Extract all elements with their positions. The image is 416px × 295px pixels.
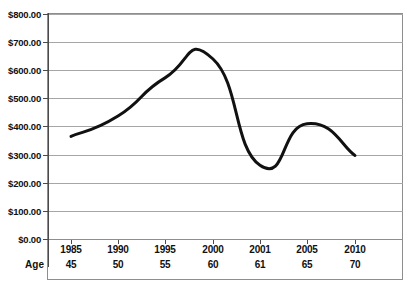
y-axis-tick-label: $100.00 (8, 206, 41, 217)
x-axis-age-label: 70 (335, 259, 375, 270)
x-axis-age-label: 50 (98, 259, 138, 270)
series-path (71, 49, 355, 169)
y-axis-tick-label: $300.00 (8, 150, 41, 161)
x-axis-age-label: 65 (287, 259, 327, 270)
x-axis-year-label: 1990 (98, 244, 138, 255)
y-tick-mark (43, 211, 48, 212)
y-tick-mark (43, 98, 48, 99)
y-tick-mark (43, 155, 48, 156)
y-axis-labels: $800.00 $700.00 $600.00 $500.00 $400.00 … (0, 0, 41, 295)
clipped-text-strip (150, 0, 416, 6)
x-axis-year-label: 1985 (51, 244, 91, 255)
y-tick-mark (43, 70, 48, 71)
y-axis-tick-label: $600.00 (8, 65, 41, 76)
x-axis-year-label: 1995 (145, 244, 185, 255)
x-axis-year-label: 2005 (287, 244, 327, 255)
x-axis-age-label: 60 (193, 259, 233, 270)
data-series-line (49, 14, 403, 239)
x-axis-year-label: 2000 (193, 244, 233, 255)
y-axis-tick-label: $0.00 (18, 234, 41, 245)
y-tick-mark (43, 14, 48, 15)
x-axis-age-label: 45 (51, 259, 91, 270)
x-axis-age-label: 55 (145, 259, 185, 270)
y-axis-tick-label: $200.00 (8, 178, 41, 189)
y-tick-mark (43, 42, 48, 43)
y-tick-mark (43, 183, 48, 184)
x-axis-age-label: 61 (240, 259, 280, 270)
age-row-label: Age (14, 259, 44, 270)
y-axis-tick-label: $800.00 (8, 9, 41, 20)
y-tick-mark (43, 126, 48, 127)
y-axis-tick-label: $500.00 (8, 93, 41, 104)
x-axis-year-label: 2001 (240, 244, 280, 255)
y-axis-tick-label: $400.00 (8, 121, 41, 132)
x-axis-line (49, 239, 403, 240)
y-tick-mark (43, 239, 48, 240)
chart-container: $800.00 $700.00 $600.00 $500.00 $400.00 … (0, 0, 416, 295)
y-axis-tick-label: $700.00 (8, 37, 41, 48)
x-axis-year-label: 2010 (335, 244, 375, 255)
